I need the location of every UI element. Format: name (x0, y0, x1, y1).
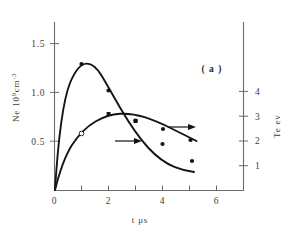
te-datapoint-5 (188, 138, 192, 142)
x-ticklabel-4: 4 (160, 196, 165, 206)
y-right-title-unit: ev (272, 114, 282, 124)
ne-datapoint-1 (79, 62, 83, 66)
te-datapoint-3 (134, 119, 138, 123)
svg-text:t μs: t μs (132, 215, 148, 225)
ne-datapoint-5 (190, 159, 194, 163)
y-left-title-unit-exponent: -3 (10, 73, 17, 80)
arrow-to-ne-curve-icon (115, 138, 142, 144)
y-right-ticklabel-3: 3 (255, 112, 260, 122)
y-right-title-symbol: Te (272, 128, 282, 138)
y-left-ticklabel-1.0: 1.0 (31, 88, 45, 98)
figure-panel-a: 0.5 1.0 1.5 Ne 109cm-3 0 2 4 6 t μs (0, 0, 291, 235)
x-ticklabel-6: 6 (214, 196, 219, 206)
y-right-ticklabel-4: 4 (255, 87, 260, 97)
y-left-title-mantissa: 10 (11, 96, 21, 107)
ne-datapoint-4 (160, 142, 164, 146)
te-datapoint-2 (107, 112, 111, 116)
svg-text:Ne 109cm-3: Ne 109cm-3 (10, 73, 21, 122)
panel-label: ( a ) (202, 64, 223, 75)
x-axis-title: t μs (132, 215, 148, 225)
x-ticklabel-2: 2 (106, 196, 111, 206)
ne-datapoint-2 (106, 88, 110, 92)
te-datapoint-1 (79, 131, 84, 136)
svg-text:Te ev: Te ev (272, 114, 282, 138)
x-ticklabel-0: 0 (52, 196, 57, 206)
y-right-ticklabel-2: 2 (255, 136, 260, 146)
y-left-axis-title: Ne 109cm-3 (10, 73, 21, 122)
y-right-axis-title: Te ev (272, 114, 282, 138)
te-datapoint-4 (161, 127, 165, 131)
y-left-ticklabel-0.5: 0.5 (31, 137, 45, 147)
y-left-title-unit: cm (11, 80, 21, 93)
x-title-unit: μs (138, 215, 148, 225)
y-left-ticklabel-1.5: 1.5 (31, 39, 45, 49)
plot-svg: 0.5 1.0 1.5 Ne 109cm-3 0 2 4 6 t μs (0, 0, 291, 235)
te-curve (55, 114, 197, 190)
y-left-title-symbol: Ne (11, 110, 21, 122)
y-right-ticklabel-1: 1 (255, 161, 260, 171)
